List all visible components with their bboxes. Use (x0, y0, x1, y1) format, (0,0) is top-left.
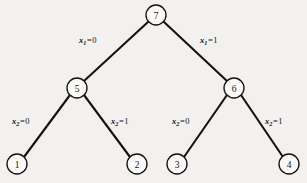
tree-graphics: 7561234 (0, 0, 307, 183)
edge-label-value: 1 (124, 116, 128, 126)
node-label: 4 (287, 160, 292, 170)
nodes-group: 7561234 (7, 5, 299, 174)
node-label: 7 (154, 11, 159, 21)
node-label: 6 (232, 84, 237, 94)
edge-label-value: 0 (185, 116, 189, 126)
tree-node[interactable]: 7 (146, 5, 166, 25)
node-label: 3 (175, 160, 180, 170)
edge-label: x2=1 (265, 117, 283, 127)
tree-edge (184, 95, 227, 157)
edge-label: x2=0 (12, 117, 30, 127)
tree-node[interactable]: 2 (127, 154, 147, 174)
tree-edge (84, 22, 148, 81)
edge-label: x2=1 (111, 117, 129, 127)
edge-label: x1=1 (200, 36, 218, 46)
edge-label: x1=0 (79, 36, 97, 46)
node-label: 2 (135, 160, 140, 170)
tree-edge (164, 22, 227, 81)
tree-edge (24, 95, 70, 157)
tree-node[interactable]: 1 (7, 154, 27, 174)
edge-label: x2=0 (172, 117, 190, 127)
tree-node[interactable]: 4 (279, 154, 299, 174)
tree-node[interactable]: 5 (67, 78, 87, 98)
edge-label-value: 1 (278, 116, 282, 126)
tree-node[interactable]: 3 (167, 154, 187, 174)
edge-label-value: 0 (25, 116, 29, 126)
node-label: 1 (15, 160, 20, 170)
edge-label-value: 0 (92, 35, 96, 45)
node-label: 5 (75, 84, 80, 94)
binary-decision-tree-figure: 7561234 x1=0x1=1x2=0x2=1x2=0x2=1 (0, 0, 307, 183)
tree-node[interactable]: 6 (224, 78, 244, 98)
edge-label-value: 1 (213, 35, 217, 45)
